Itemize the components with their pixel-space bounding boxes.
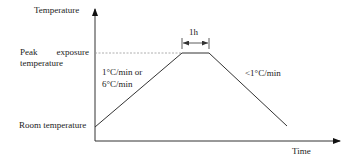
x-axis-label: Time: [292, 146, 311, 157]
cooling-rate-label: <1°C/min: [245, 68, 281, 79]
y-axis-label: Temperature: [34, 5, 79, 16]
peak-temperature-label: Peak exposure temperature: [20, 47, 89, 69]
heating-rate-label-line2: 6°C/min: [102, 79, 133, 90]
hold-duration-label: 1h: [189, 27, 198, 38]
peak-label-line1: Peak exposure: [20, 47, 89, 58]
diagram-canvas: [0, 0, 357, 163]
room-temperature-label: Room temperature: [19, 120, 86, 131]
peak-label-line2: temperature: [20, 58, 89, 69]
temperature-profile-line: [95, 53, 287, 127]
heating-rate-label-line1: 1°C/min or: [102, 67, 142, 78]
